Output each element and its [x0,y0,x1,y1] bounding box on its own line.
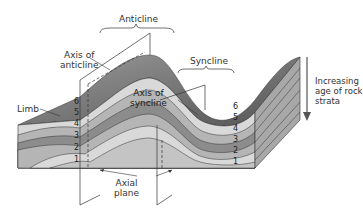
axial-plane-label: Axial plane [114,178,139,198]
age-label: Increasing age of rock strata [315,76,363,106]
layer-number: 5 [74,108,79,117]
layer-number: 6 [233,102,238,111]
layer-number: 6 [74,97,79,106]
syncline-brace [178,66,234,73]
limb-label: Limb [17,104,39,114]
layer-number: 4 [74,119,79,128]
layer-number: 2 [74,143,79,152]
anticline-brace [100,24,174,33]
layer-number: 3 [74,131,79,140]
layer-number: 4 [233,124,238,133]
layer-number: 1 [74,155,79,164]
axis-of-syncline-label: Axis of syncline [130,88,167,108]
layer-number: 5 [233,113,238,122]
anticline-label: Anticline [119,14,158,24]
axis-of-anticline-label: Axis of anticline [60,50,98,70]
layer-number: 2 [233,146,238,155]
syncline-label: Syncline [190,56,228,66]
layer-number: 3 [233,135,238,144]
layer-number: 1 [233,157,238,166]
